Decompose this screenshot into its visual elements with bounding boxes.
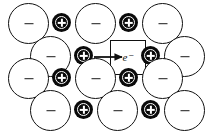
minus-icon — [158, 78, 167, 80]
plus-icon — [149, 51, 151, 60]
cation-r1c2 — [52, 13, 71, 32]
plus-icon — [127, 18, 129, 27]
minus-icon — [24, 78, 33, 80]
minus-icon — [158, 23, 167, 25]
minus-icon — [46, 110, 55, 112]
minus-icon — [180, 110, 189, 112]
minus-icon — [91, 23, 100, 25]
plus-icon — [127, 73, 129, 82]
minus-icon — [24, 23, 33, 25]
ionic-lattice-figure: e⁻ — [0, 0, 210, 135]
minus-icon — [180, 56, 189, 58]
anion-r1c3 — [75, 3, 116, 44]
cation-r4c2 — [74, 100, 93, 119]
plus-icon — [149, 105, 151, 114]
plus-icon — [60, 73, 62, 82]
cation-r4c4 — [141, 100, 160, 119]
plus-icon — [82, 51, 84, 60]
plus-icon — [82, 105, 84, 114]
cation-r3c2 — [52, 68, 71, 87]
minus-icon — [46, 56, 55, 58]
plus-icon — [60, 18, 62, 27]
cation-r3c4 — [119, 68, 138, 87]
minus-icon — [113, 110, 122, 112]
anion-r4c5 — [164, 90, 205, 131]
minus-icon — [91, 78, 100, 80]
cation-r1c4 — [119, 13, 138, 32]
anion-r4c1 — [30, 90, 71, 131]
anion-r4c3 — [97, 90, 138, 131]
